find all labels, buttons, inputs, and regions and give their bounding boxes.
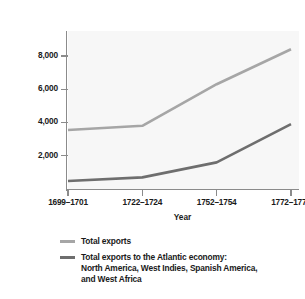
legend-item-atlantic-economy: Total exports to the Atlantic economy: N… [60, 252, 300, 285]
chart-figure: Value (in thousands of pounds sterling) … [0, 0, 305, 299]
x-tick-label: 1699–1701 [35, 197, 101, 207]
y-tick-mark [61, 122, 68, 123]
x-tick-label: 1772–1774 [258, 197, 305, 207]
x-tick-mark [290, 190, 291, 196]
x-tick-mark [142, 190, 143, 196]
x-axis-title: Year [66, 212, 299, 222]
y-tick-label: 6,000 [18, 83, 58, 93]
x-axis-line [66, 189, 299, 190]
y-tick-label: 2,000 [18, 150, 58, 160]
y-tick-label: 4,000 [18, 116, 58, 126]
x-tick-label: 1752–1754 [184, 197, 250, 207]
legend-swatch-total-exports [60, 240, 75, 243]
legend-label-atlantic-economy: Total exports to the Atlantic economy: N… [81, 252, 257, 285]
y-tick-mark [61, 89, 68, 90]
x-tick-mark [67, 190, 68, 196]
x-tick-label: 1722–1724 [109, 197, 175, 207]
legend-label-line-1: Total exports to the Atlantic economy: [81, 252, 227, 262]
legend-label-total-exports: Total exports [81, 236, 131, 247]
legend-label-line-2: North America, West Indies, Spanish Amer… [81, 263, 257, 273]
y-tick-label: 8,000 [18, 50, 58, 60]
legend-swatch-atlantic-economy [60, 256, 75, 259]
x-tick-mark [216, 190, 217, 196]
legend-label-line-3: and West Africa [81, 274, 142, 284]
plot-area [68, 31, 299, 190]
y-tick-mark [61, 155, 68, 156]
legend-item-total-exports: Total exports [60, 236, 300, 247]
chart-legend: Total exports Total exports to the Atlan… [60, 236, 300, 290]
y-tick-mark [61, 55, 68, 56]
